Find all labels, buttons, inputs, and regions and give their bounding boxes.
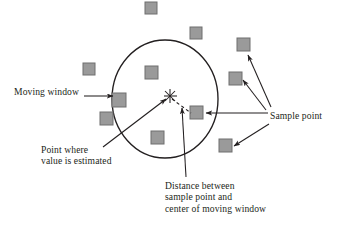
- label-sample-point: Sample point: [270, 110, 322, 121]
- sample-point-leader-topright: [248, 55, 271, 107]
- sample-point-square: [190, 27, 202, 39]
- distance-leader: [182, 108, 186, 177]
- sample-point-square: [229, 72, 242, 85]
- label-point-where-line1: Point where: [41, 144, 112, 155]
- sample-point-square: [83, 63, 95, 75]
- label-distance-line2: sample point and: [165, 191, 266, 202]
- moving-window-circle: [112, 40, 218, 158]
- sample-point-square: [190, 106, 203, 119]
- sample-point-square: [145, 2, 157, 14]
- label-sample-point-line1: Sample point: [270, 110, 322, 121]
- label-point-where-line2: value is estimated: [41, 155, 112, 166]
- sample-point-square: [100, 112, 113, 125]
- sample-point-leader-midright: [243, 80, 266, 110]
- sample-point-leader-bottomright: [234, 124, 269, 146]
- label-point-where-value-estimated: Point where value is estimated: [41, 144, 112, 167]
- sample-point-square: [237, 38, 250, 51]
- label-distance-line3: center of moving window: [165, 203, 266, 214]
- label-moving-window-line1: Moving window: [14, 86, 79, 97]
- sample-point-square: [145, 66, 158, 79]
- sample-point-square: [112, 93, 126, 107]
- label-moving-window: Moving window: [14, 86, 79, 97]
- sample-point-square: [219, 139, 232, 152]
- sample-point-square: [151, 131, 164, 144]
- sample-point-squares: [83, 2, 250, 152]
- estimation-point-marker: [164, 89, 177, 103]
- label-distance-between: Distance between sample point and center…: [165, 180, 266, 214]
- figure-canvas: Moving window Sample point Point where v…: [0, 0, 337, 226]
- label-distance-line1: Distance between: [165, 180, 266, 191]
